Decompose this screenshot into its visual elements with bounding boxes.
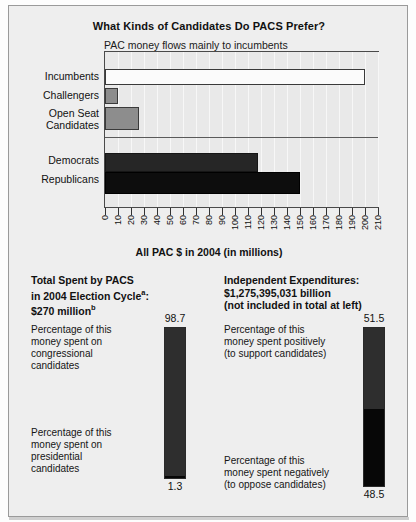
bar-label-open-seat-2: Candidates xyxy=(46,119,99,131)
panel-left-amount: $270 million xyxy=(31,304,91,316)
panel-right-title-line1: Independent Expenditures: xyxy=(224,274,414,287)
tick-label-210: 210 xyxy=(374,215,383,230)
gauge-left-segment-presidential xyxy=(165,476,185,478)
tick-label-110: 110 xyxy=(244,215,253,229)
gauge-left-segment-congressional xyxy=(165,328,185,476)
panel-right-title-line3: (not included in total at left) xyxy=(224,299,414,312)
panel-left-title: Total Spent by PACS in 2004 Election Cyc… xyxy=(31,274,206,317)
x-axis-tick-labels: 0102030405060708090100110120130140150160… xyxy=(104,215,379,245)
panel-right-title: Independent Expenditures: $1,275,395,031… xyxy=(224,274,414,312)
tick-label-60: 60 xyxy=(179,215,188,225)
bar-label-incumbents: Incumbents xyxy=(45,70,99,82)
tick-label-180: 180 xyxy=(335,215,344,230)
panel-left-title-line2-text: in 2004 Election Cycle xyxy=(31,289,141,301)
tick-label-200: 200 xyxy=(361,215,370,230)
tick-100 xyxy=(235,208,236,215)
caption-spent-negatively: Percentage of thismoney spent negatively… xyxy=(224,455,364,491)
tick-130 xyxy=(274,208,275,215)
tick-180 xyxy=(339,208,340,215)
bar-challengers xyxy=(105,88,118,104)
tick-40 xyxy=(157,208,158,215)
tick-140 xyxy=(287,208,288,215)
tick-110 xyxy=(248,208,249,215)
tick-label-10: 10 xyxy=(114,215,123,225)
tick-30 xyxy=(144,208,145,215)
gridline-210 xyxy=(378,52,379,207)
bar-label-democrats: Democrats xyxy=(48,154,99,166)
footnote-marker-b: b xyxy=(91,303,96,312)
panel-left-title-line1: Total Spent by PACS xyxy=(31,274,206,287)
gauge-right-segment-negative xyxy=(364,409,384,486)
tick-label-30: 30 xyxy=(140,215,149,225)
panel-independent-expenditures: Independent Expenditures: $1,275,395,031… xyxy=(224,274,414,312)
tick-label-20: 20 xyxy=(127,215,136,225)
tick-label-140: 140 xyxy=(283,215,292,230)
chart-subtitle: PAC money flows mainly to incumbents xyxy=(104,39,288,51)
caption-congressional-candidates: Percentage of thismoney spent oncongress… xyxy=(31,324,151,372)
outer-frame: What Kinds of Candidates Do PACS Prefer?… xyxy=(8,5,408,517)
page-shadow xyxy=(9,517,409,520)
tick-label-70: 70 xyxy=(192,215,201,225)
tick-210 xyxy=(378,208,379,215)
panel-left-title-line2-colon: : xyxy=(145,289,149,301)
bar-chart-plot-area xyxy=(104,51,379,208)
tick-label-100: 100 xyxy=(231,215,240,230)
tick-90 xyxy=(222,208,223,215)
group-separator-line xyxy=(105,137,378,138)
tick-label-40: 40 xyxy=(153,215,162,225)
bar-label-open-seat-1: Open Seat xyxy=(49,107,99,119)
tick-label-160: 160 xyxy=(309,215,318,230)
panel-left-title-line2: in 2004 Election Cyclea: xyxy=(31,287,206,302)
bar-republicans xyxy=(105,172,300,194)
tick-120 xyxy=(261,208,262,215)
tick-label-130: 130 xyxy=(270,215,279,230)
chart-title: What Kinds of Candidates Do PACS Prefer? xyxy=(9,20,409,32)
gauge-total-spent xyxy=(164,327,186,479)
tick-label-90: 90 xyxy=(218,215,227,225)
tick-label-50: 50 xyxy=(166,215,175,225)
bar-incumbents xyxy=(105,69,365,85)
tick-label-0: 0 xyxy=(101,215,110,220)
x-axis-title: All PAC $ in 2004 (in millions) xyxy=(9,246,409,258)
infographic-page: What Kinds of Candidates Do PACS Prefer?… xyxy=(0,0,416,522)
panel-total-spent: Total Spent by PACS in 2004 Election Cyc… xyxy=(31,274,206,317)
tick-20 xyxy=(131,208,132,215)
tick-label-120: 120 xyxy=(257,215,266,230)
tick-label-150: 150 xyxy=(296,215,305,230)
caption-presidential-candidates: Percentage of thismoney spent onpresiden… xyxy=(31,427,151,475)
tick-70 xyxy=(196,208,197,215)
gauge-right-segment-positive xyxy=(364,328,384,409)
tick-160 xyxy=(313,208,314,215)
value-presidential-pct: 1.3 xyxy=(155,480,195,492)
bar-open-seat-candidates xyxy=(105,107,139,130)
tick-label-80: 80 xyxy=(205,215,214,225)
panel-right-title-line2: $1,275,395,031 billion xyxy=(224,287,414,300)
bar-democrats xyxy=(105,153,258,172)
tick-80 xyxy=(209,208,210,215)
tick-190 xyxy=(352,208,353,215)
value-positive-pct: 51.5 xyxy=(354,312,394,324)
category-axis-labels: Incumbents Challengers Open Seat Candida… xyxy=(9,51,99,211)
tick-0 xyxy=(105,208,106,215)
tick-label-190: 190 xyxy=(348,215,357,230)
x-axis-ticks xyxy=(104,208,379,215)
tick-170 xyxy=(326,208,327,215)
gauge-independent-expenditures xyxy=(363,327,385,487)
caption-spent-positively: Percentage of thismoney spent positively… xyxy=(224,324,364,360)
tick-10 xyxy=(118,208,119,215)
value-congressional-pct: 98.7 xyxy=(155,312,195,324)
tick-200 xyxy=(365,208,366,215)
value-negative-pct: 48.5 xyxy=(354,488,394,500)
tick-50 xyxy=(170,208,171,215)
gridline-200 xyxy=(365,52,366,207)
bar-label-challengers: Challengers xyxy=(43,89,99,101)
tick-label-170: 170 xyxy=(322,215,331,230)
bar-label-republicans: Republicans xyxy=(41,173,99,185)
tick-150 xyxy=(300,208,301,215)
tick-60 xyxy=(183,208,184,215)
